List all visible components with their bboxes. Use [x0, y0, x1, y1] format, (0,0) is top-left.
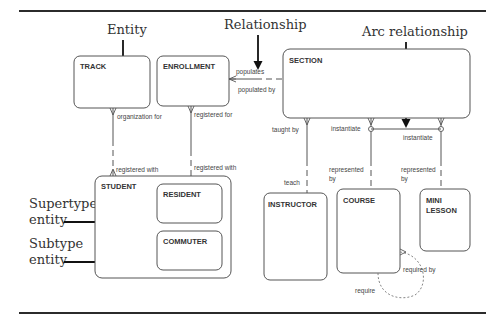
rel-label-represented-course-line1: represented	[329, 166, 364, 174]
callout-relationship: Relationship	[224, 17, 307, 32]
entity-enrollment[interactable]: ENROLLMENT	[157, 56, 229, 106]
entity-instructor[interactable]: INSTRUCTOR	[264, 193, 327, 280]
entity-course-label: COURSE	[343, 196, 375, 205]
rel-label-require: require	[355, 287, 376, 295]
callout-supertype-line2: entity	[29, 212, 68, 227]
entity-resident-label: RESIDENT	[163, 190, 201, 199]
callout-supertype-line1: Supertype	[29, 196, 97, 211]
rel-label-represented-course-line2: by	[329, 175, 337, 183]
rel-label-teach: teach	[284, 179, 300, 186]
rel-label-populated-by: populated by	[238, 86, 276, 94]
rel-label-represented-mini-lesson-line2: by	[401, 175, 409, 183]
entity-resident[interactable]: RESIDENT	[157, 184, 222, 223]
entity-track-label: TRACK	[80, 62, 107, 71]
rel-label-taught-by: taught by	[272, 126, 299, 134]
rel-label-required-by: required by	[403, 266, 436, 274]
rel-label-populates: populates	[236, 68, 265, 76]
callout-subtype-line1: Subtype	[29, 236, 83, 251]
relationship-enrollment-section[interactable]	[229, 76, 283, 82]
rel-label-instantiate-mini-lesson: instantiate	[403, 134, 433, 141]
entity-commuter[interactable]: COMMUTER	[157, 231, 222, 270]
callout-arc-relationship: Arc relationship	[361, 24, 468, 39]
entity-mini-lesson[interactable]: MINI LESSON	[420, 189, 470, 251]
rel-label-registered-with-enrollment: registered with	[194, 164, 237, 172]
entity-commuter-label: COMMUTER	[163, 237, 208, 246]
rel-label-instantiate-course: instantiate	[331, 125, 361, 132]
entity-course[interactable]: COURSE	[337, 189, 400, 273]
entity-section-label: SECTION	[289, 56, 322, 65]
relationship-section-instructor[interactable]	[304, 118, 310, 193]
entity-student-label: STUDENT	[101, 182, 137, 191]
entity-instructor-label: INSTRUCTOR	[268, 200, 318, 209]
callout-subtype-line2: entity	[29, 252, 68, 267]
rel-label-represented-mini-lesson-line1: represented	[401, 166, 436, 174]
entity-enrollment-label: ENROLLMENT	[163, 62, 215, 71]
entity-mini-lesson-label-line1: MINI	[426, 196, 442, 205]
rel-label-registered-for: registered for	[194, 111, 233, 119]
entity-mini-lesson-label-line2: LESSON	[426, 206, 457, 215]
er-diagram: Entity Relationship Arc relationship Sup…	[0, 0, 502, 317]
entity-track[interactable]: TRACK	[74, 56, 150, 108]
rel-label-organization-for: organization for	[117, 113, 163, 121]
entity-section[interactable]: SECTION	[283, 49, 470, 118]
callout-relationship-arrow	[254, 35, 263, 70]
rel-label-registered-with-track: registered with	[116, 166, 159, 174]
callout-entity: Entity	[107, 22, 147, 37]
